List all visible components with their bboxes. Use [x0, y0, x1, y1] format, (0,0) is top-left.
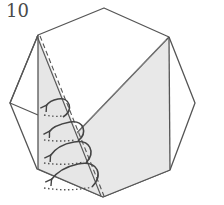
origami-diagram	[0, 0, 224, 205]
